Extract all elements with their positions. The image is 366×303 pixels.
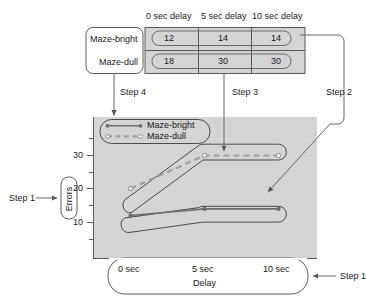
step-2-label: Step 2: [326, 88, 352, 97]
step-1-bottom-label: Step 1: [340, 272, 366, 281]
y-axis-title: Errors: [64, 184, 74, 214]
table-cell-r1c0: 18: [164, 57, 174, 66]
table-column-header-2: 10 sec delay: [252, 12, 303, 21]
x-axis-title: Delay: [193, 279, 216, 288]
table-cell-r0c1: 14: [218, 34, 228, 43]
legend-item-maze-dull: Maze-dull: [147, 132, 186, 141]
table-column-header-0: 0 sec delay: [146, 12, 192, 21]
table-row-label-maze-bright: Maze-bright: [90, 35, 138, 44]
table-cell-r1c2: 30: [271, 57, 281, 66]
y-tick-label-20: 20: [73, 184, 83, 193]
figure-root: 0 sec delay 5 sec delay 10 sec delay Maz…: [0, 0, 366, 303]
table-cell-r1c1: 30: [218, 57, 228, 66]
table-row-label-maze-dull: Maze-dull: [99, 58, 138, 67]
x-tick-label-0sec: 0 sec: [118, 265, 140, 274]
y-tick-label-10: 10: [73, 218, 83, 227]
step-4-label: Step 4: [120, 88, 146, 97]
figure-graphics: [0, 0, 366, 303]
x-tick-label-5sec: 5 sec: [192, 265, 214, 274]
y-tick-label-30: 30: [73, 151, 83, 160]
table-cell-r0c2: 14: [271, 34, 281, 43]
legend-item-maze-bright: Maze-bright: [147, 121, 195, 130]
table-column-header-1: 5 sec delay: [201, 12, 247, 21]
x-tick-label-10sec: 10 sec: [263, 265, 290, 274]
step-1-left-label: Step 1: [9, 194, 35, 203]
plot-area-graphics: [87, 117, 317, 264]
table-cell-r0c0: 12: [164, 34, 174, 43]
step-3-label: Step 3: [232, 88, 258, 97]
